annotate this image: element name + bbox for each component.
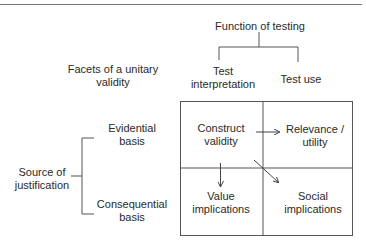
cell-social-implications: Social implications bbox=[273, 190, 353, 216]
cell-relevance-utility: Relevance / utility bbox=[280, 123, 350, 149]
column-test-use: Test use bbox=[276, 73, 326, 86]
arrow-diagonal bbox=[254, 160, 278, 182]
source-bracket bbox=[71, 138, 94, 214]
column-test-interpretation: Test interpretation bbox=[188, 65, 258, 91]
cell-construct-validity: Construct validity bbox=[186, 122, 256, 148]
function-bracket bbox=[219, 32, 298, 62]
facets-title: Facets of a unitary validity bbox=[58, 63, 168, 89]
row-consequential-basis: Consequential basis bbox=[92, 198, 172, 224]
cell-value-implications: Value implications bbox=[186, 190, 256, 216]
function-of-testing-label: Function of testing bbox=[210, 20, 310, 33]
row-evidential-basis: Evidential basis bbox=[92, 122, 172, 148]
row-header-source: Source of justification bbox=[12, 166, 72, 192]
